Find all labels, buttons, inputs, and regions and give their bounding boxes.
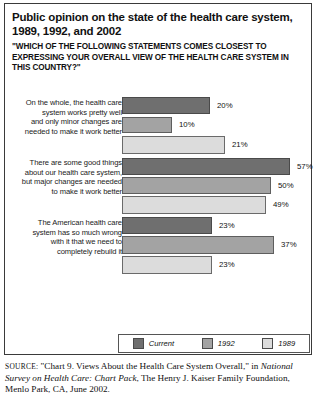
legend-label: 1989 (278, 339, 295, 348)
bar-value-label: 37% (281, 240, 297, 249)
bar-1992[interactable] (122, 236, 274, 254)
category-label-line: to make it work better (10, 187, 122, 197)
bar-value-label: 20% (217, 101, 233, 110)
bar-group: On the whole, the health caresystem work… (5, 94, 313, 156)
category-label-line: with it that we need to (10, 237, 122, 247)
bar-current[interactable] (122, 158, 290, 175)
category-label-line: There are some good things (10, 158, 122, 168)
legend-item[interactable]: 1989 (262, 338, 295, 349)
source-prefix: SOURCE: (5, 362, 38, 371)
chart-legend: Current19921989 (118, 334, 310, 353)
legend-label: 1992 (218, 339, 235, 348)
legend-item[interactable]: Current (133, 338, 174, 349)
bar-1989[interactable] (122, 136, 225, 154)
bar-1989[interactable] (122, 256, 212, 274)
category-label-line: and only minor changes are (10, 117, 122, 127)
bar-value-label: 23% (219, 260, 235, 269)
chart-sheet: Public opinion on the state of the healt… (0, 0, 320, 400)
bar-current[interactable] (122, 97, 210, 114)
bar-value-label: 57% (297, 162, 313, 171)
source-quote: "Chart 9. Views About the Health Care Sy… (41, 361, 249, 371)
bar-1992[interactable] (122, 117, 172, 133)
category-label-line: system has so much wrong (10, 228, 122, 238)
bar-value-label: 50% (278, 181, 294, 190)
legend-label: Current (149, 339, 174, 348)
source-note: SOURCE: "Chart 9. Views About the Health… (5, 361, 309, 396)
category-label-line: system works pretty well (10, 108, 122, 118)
legend-swatch-icon (133, 338, 144, 349)
category-label-line: completely rebuild it (10, 247, 122, 257)
source-rest: , The Henry J. Kaiser Family (137, 373, 244, 383)
category-label-line: On the whole, the health care (10, 98, 122, 108)
category-label-line: needed to make it work better (10, 127, 122, 137)
bar-current[interactable] (122, 217, 212, 234)
page-title: Public opinion on the state of the healt… (12, 11, 304, 38)
bar-1992[interactable] (122, 177, 271, 194)
plot-area: On the whole, the health caresystem work… (5, 94, 313, 329)
bar-value-label: 10% (179, 120, 195, 129)
bar-value-label: 23% (219, 221, 235, 230)
legend-swatch-icon (262, 338, 273, 349)
category-label: There are some good thingsabout our heal… (10, 158, 122, 196)
bar-group: There are some good thingsabout our heal… (5, 156, 313, 214)
chart-subtitle: "WHICH OF THE FOLLOWING STATEMENTS COMES… (12, 42, 308, 74)
bar-value-label: 21% (232, 140, 248, 149)
category-label: The American health caresystem has so mu… (10, 218, 122, 256)
bar-1989[interactable] (122, 196, 266, 214)
source-connector: in (251, 361, 258, 371)
bar-value-label: 49% (273, 200, 289, 209)
chart-container: Public opinion on the state of the healt… (4, 3, 312, 355)
legend-swatch-icon (202, 338, 213, 349)
category-label-line: about our health care system, (10, 168, 122, 178)
category-label-line: The American health care (10, 218, 122, 228)
category-label: On the whole, the health caresystem work… (10, 98, 122, 136)
category-label-line: but major changes are needed (10, 177, 122, 187)
bar-group: The American health caresystem has so mu… (5, 214, 313, 274)
legend-item[interactable]: 1992 (202, 338, 235, 349)
